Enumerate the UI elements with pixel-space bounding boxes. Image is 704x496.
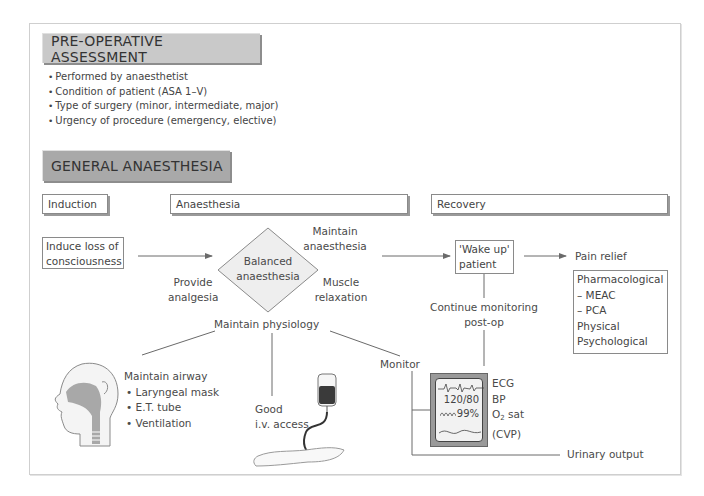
preop-bullet: Type of surgery (minor, intermediate, ma… (48, 99, 278, 114)
airway-item-label: E.T. tube (136, 401, 182, 413)
pain-option: Psychological (577, 334, 664, 350)
screen-sat: 99% (457, 408, 479, 419)
wake-up-line: 'Wake up' (459, 242, 510, 257)
pain-relief-options-box: Pharmacological – MEAC – PCA Physical Ps… (573, 270, 668, 354)
param-o2-sat: O2 sat (492, 407, 524, 427)
maintain-physiology-label: Maintain physiology (214, 317, 319, 332)
induce-box: Induce loss of consciousness (42, 237, 124, 269)
o2-sat-text: sat (505, 408, 524, 420)
head-airway-icon (52, 360, 122, 450)
param-ecg: ECG (492, 376, 524, 392)
maintain-anaesthesia-label: Maintain anaesthesia (300, 224, 370, 254)
balanced-line: Balanced (222, 254, 314, 269)
provide-analgesia-label: Provide analgesia (168, 275, 218, 305)
pain-option: – MEAC (577, 288, 664, 304)
wake-up-line: patient (459, 257, 510, 272)
urinary-output-label: Urinary output (567, 447, 644, 462)
monitor-label: Monitor (380, 357, 420, 372)
preop-bullet: Condition of patient (ASA 1–V) (48, 85, 278, 100)
iv-drip-arm-icon (248, 370, 358, 470)
airway-item: • E.T. tube (124, 400, 219, 416)
monitor-screen: 120/80 99% (435, 378, 483, 442)
preop-header: PRE-OPERATIVE ASSESSMENT (42, 33, 260, 63)
airway-title: Maintain airway (124, 369, 219, 385)
phase-recovery: Recovery (431, 194, 668, 214)
airway-item-label: Ventilation (136, 417, 192, 429)
ecg-trace-icon (438, 382, 484, 394)
balanced-line: anaesthesia (222, 269, 314, 284)
phase-anaesthesia-label: Anaesthesia (176, 198, 240, 210)
phase-induction-label: Induction (48, 198, 97, 210)
preop-title: PRE-OPERATIVE ASSESSMENT (51, 33, 260, 65)
monitor-device: 120/80 99% (430, 373, 488, 447)
airway-item: • Ventilation (124, 416, 219, 432)
induce-line: consciousness (46, 254, 120, 269)
phase-induction: Induction (42, 194, 108, 214)
wake-up-box: 'Wake up' patient (455, 240, 514, 274)
airway-list: Maintain airway • Laryngeal mask • E.T. … (124, 369, 219, 431)
airway-item: • Laryngeal mask (124, 385, 219, 401)
airway-item-label: Laryngeal mask (136, 386, 220, 398)
phase-anaesthesia: Anaesthesia (170, 194, 408, 214)
maintain-anaesthesia-line: anaesthesia (300, 239, 370, 254)
pain-option: – PCA (577, 303, 664, 319)
general-title: GENERAL ANAESTHESIA (51, 158, 223, 174)
general-anaesthesia-header: GENERAL ANAESTHESIA (42, 150, 230, 181)
param-cvp: (CVP) (492, 427, 524, 443)
continue-monitoring-label: Continue monitoring post-op (424, 300, 544, 330)
preop-bullet: Performed by anaesthetist (48, 70, 278, 85)
muscle-line: relaxation (308, 290, 374, 305)
provide-line: Provide (168, 275, 218, 290)
screen-bp: 120/80 (444, 394, 479, 405)
muscle-relaxation-label: Muscle relaxation (308, 275, 374, 305)
induce-line: Induce loss of (46, 239, 120, 254)
preop-bullets: Performed by anaesthetist Condition of p… (48, 70, 278, 128)
pain-option: Pharmacological (577, 272, 664, 288)
pleth-trace-icon (440, 410, 456, 418)
phase-recovery-label: Recovery (437, 198, 486, 210)
balanced-label: Balanced anaesthesia (222, 254, 314, 284)
continue-monitoring-line: post-op (424, 315, 544, 330)
muscle-line: Muscle (308, 275, 374, 290)
maintain-anaesthesia-line: Maintain (300, 224, 370, 239)
monitor-params: ECG BP O2 sat (CVP) (492, 376, 524, 442)
provide-line: analgesia (168, 290, 218, 305)
pain-relief-label: Pain relief (575, 249, 627, 264)
param-bp: BP (492, 392, 524, 408)
preop-bullet: Urgency of procedure (emergency, electiv… (48, 114, 278, 129)
cvp-trace-icon (439, 427, 481, 437)
continue-monitoring-line: Continue monitoring (424, 300, 544, 315)
pain-option: Physical (577, 319, 664, 335)
